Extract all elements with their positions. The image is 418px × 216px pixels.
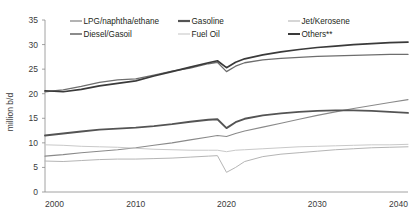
x-tick-label: 2030: [308, 199, 327, 209]
x-tick-label: 2040: [389, 199, 408, 209]
y-axis: 05101520253035: [29, 15, 45, 197]
series-line: [45, 42, 408, 92]
y-axis-title: million b/d: [5, 93, 15, 132]
x-tick-label: 2020: [217, 199, 236, 209]
y-tick-label: 10: [29, 138, 39, 148]
legend-label[interactable]: Fuel Oil: [192, 30, 220, 39]
chart-series: [45, 42, 408, 172]
legend-label[interactable]: Gasoline: [192, 17, 225, 26]
chart-canvas: LPG/naphtha/ethaneGasolineJet/KeroseneDi…: [0, 0, 418, 216]
y-tick-label: 30: [29, 40, 39, 50]
legend-label[interactable]: Others**: [302, 30, 334, 39]
y-tick-label: 0: [33, 187, 38, 197]
line-chart: LPG/naphtha/ethaneGasolineJet/KeroseneDi…: [0, 0, 418, 216]
y-tick-label: 5: [33, 162, 38, 172]
y-tick-label: 20: [29, 89, 39, 99]
series-line: [45, 144, 408, 151]
x-tick-label: 2000: [45, 199, 64, 209]
y-tick-label: 25: [29, 64, 39, 74]
y-tick-label: 15: [29, 113, 39, 123]
legend-label[interactable]: Jet/Kerosene: [302, 17, 351, 26]
legend-label[interactable]: Diesel/Gasoil: [84, 30, 132, 39]
series-line: [45, 147, 408, 173]
x-axis: 20002010202020302040: [45, 192, 408, 209]
chart-legend: LPG/naphtha/ethaneGasolineJet/KeroseneDi…: [70, 17, 350, 39]
legend-label[interactable]: LPG/naphtha/ethane: [84, 17, 160, 26]
x-tick-label: 2010: [126, 199, 145, 209]
y-tick-label: 35: [29, 15, 39, 25]
series-line: [45, 110, 408, 135]
